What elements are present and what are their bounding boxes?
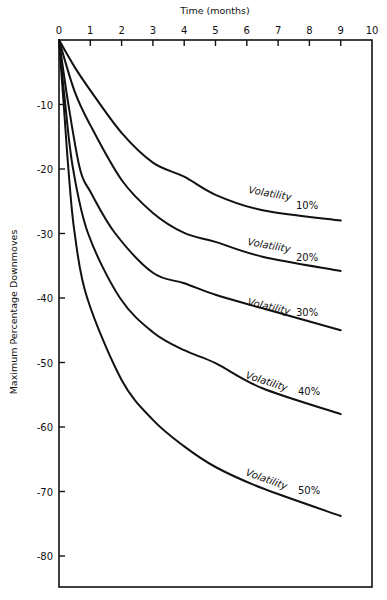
curve-label-word: Volatility — [247, 296, 293, 317]
y-tick-label: -30 — [37, 229, 53, 240]
x-tick-label: 3 — [150, 25, 156, 36]
y-tick-label: -80 — [37, 551, 53, 562]
x-tick-label: 10 — [366, 25, 379, 36]
y-tick-label: -10 — [37, 100, 53, 111]
chart: Time (months) 012345678910 -10-20-30-40-… — [0, 0, 387, 600]
curves — [59, 40, 341, 516]
x-tick-label: 8 — [306, 25, 312, 36]
y-tick-label: -20 — [37, 164, 53, 175]
y-axis: -10-20-30-40-50-60-70-80 — [37, 100, 65, 563]
x-tick-label: 6 — [244, 25, 250, 36]
x-axis-title: Time (months) — [179, 5, 249, 16]
curve-volatility-40 — [59, 40, 341, 414]
x-tick-label: 4 — [181, 25, 187, 36]
curve-labels: Volatility10%Volatility20%Volatility30%V… — [244, 184, 320, 496]
x-tick-label: 0 — [56, 25, 62, 36]
x-tick-label: 1 — [87, 25, 93, 36]
y-axis-title: Maximum Percentage Downmoves — [8, 230, 19, 395]
curve-label-pct: 20% — [296, 252, 318, 263]
y-tick-label: -50 — [37, 358, 53, 369]
curve-volatility-10 — [59, 40, 341, 221]
x-tick-label: 7 — [275, 25, 281, 36]
curve-label-word: Volatility — [244, 467, 290, 493]
curve-volatility-20 — [59, 40, 341, 271]
curve-label-pct: 30% — [296, 307, 318, 318]
x-axis: 012345678910 — [56, 25, 379, 46]
x-tick-label: 5 — [212, 25, 218, 36]
y-tick-label: -70 — [37, 487, 53, 498]
curve-label-word: Volatility — [247, 236, 293, 255]
x-tick-label: 2 — [118, 25, 124, 36]
curve-label-pct: 10% — [296, 200, 318, 211]
curve-label-pct: 50% — [298, 485, 320, 496]
curve-label-pct: 40% — [298, 386, 320, 397]
y-tick-label: -60 — [37, 422, 53, 433]
curve-volatility-50 — [59, 40, 341, 516]
plot-frame — [59, 40, 372, 587]
x-tick-label: 9 — [338, 25, 344, 36]
curve-label-word: Volatility — [248, 184, 294, 203]
y-tick-label: -40 — [37, 293, 53, 304]
